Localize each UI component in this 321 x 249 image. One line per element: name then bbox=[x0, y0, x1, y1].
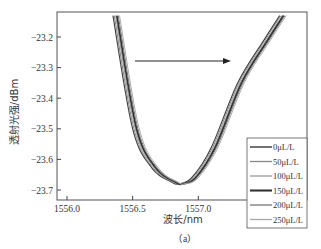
x-tick-label: 1557.0 bbox=[185, 204, 211, 214]
shift-arrow bbox=[135, 58, 231, 64]
legend-label: 100μL/L bbox=[273, 171, 303, 181]
y-tick-label: −23.7 bbox=[31, 186, 53, 196]
y-tick-label: −23.5 bbox=[31, 124, 53, 134]
x-axis: 1556.01556.51557.01557.5 bbox=[54, 196, 277, 214]
x-axis-title: 波长/nm bbox=[163, 213, 202, 225]
legend-label: 250μL/L bbox=[273, 215, 303, 225]
x-tick-label: 1556.0 bbox=[54, 204, 80, 214]
arrow-head-icon bbox=[223, 58, 231, 64]
legend-label: 200μL/L bbox=[273, 200, 303, 210]
y-tick-label: −23.6 bbox=[31, 155, 53, 165]
chart: −23.2−23.3−23.4−23.5−23.6−23.7 1556.0155… bbox=[0, 0, 321, 249]
legend-label: 50μL/L bbox=[273, 157, 299, 167]
legend-label: 150μL/L bbox=[273, 186, 303, 196]
legend-label: 0μL/L bbox=[273, 142, 295, 152]
y-axis-title: 透射光强/dBm bbox=[8, 79, 20, 145]
figure-caption: （a） bbox=[173, 233, 197, 244]
legend: 0μL/L50μL/L100μL/L150μL/L200μL/L250μL/L bbox=[247, 138, 307, 228]
x-tick-label: 1556.5 bbox=[120, 204, 146, 214]
y-tick-label: −23.2 bbox=[31, 33, 53, 43]
y-tick-label: −23.3 bbox=[31, 63, 53, 73]
y-tick-label: −23.4 bbox=[31, 94, 53, 104]
